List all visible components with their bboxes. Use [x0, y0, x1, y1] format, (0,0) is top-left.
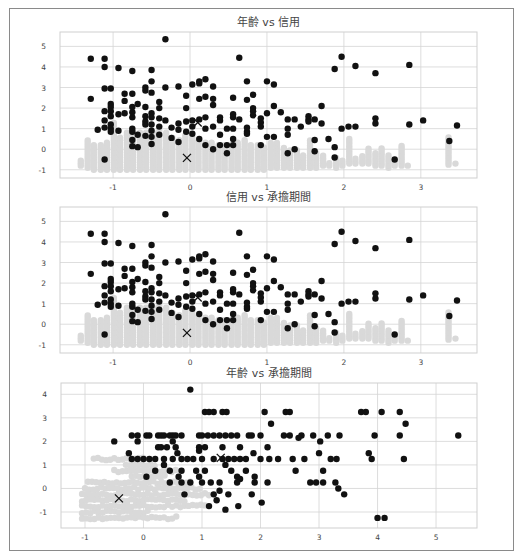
data-point — [285, 291, 291, 297]
data-point — [121, 285, 127, 291]
data-point — [108, 304, 114, 310]
data-point — [101, 156, 107, 162]
data-point — [108, 288, 114, 294]
data-point — [115, 240, 121, 246]
data-point — [320, 468, 326, 474]
data-point — [101, 64, 107, 70]
data-point — [148, 78, 154, 84]
data-point — [187, 386, 193, 392]
data-point — [168, 310, 174, 316]
data-point — [148, 303, 154, 309]
data-point — [258, 298, 264, 304]
data-point — [372, 70, 378, 76]
data-point — [162, 117, 168, 123]
data-point — [134, 438, 140, 444]
data-point — [455, 432, 461, 438]
data-point — [311, 291, 317, 297]
data-point — [446, 138, 452, 144]
data-point — [175, 314, 181, 320]
data-point — [331, 329, 337, 335]
data-point — [224, 317, 230, 323]
data-point — [148, 114, 154, 120]
x-tick-label: 2 — [342, 358, 347, 367]
data-point — [250, 450, 256, 456]
data-point — [230, 125, 236, 131]
data-point — [236, 230, 242, 236]
data-point — [264, 285, 270, 291]
y-tick-label: -1 — [39, 166, 47, 175]
data-point — [371, 432, 377, 438]
data-point — [88, 271, 94, 277]
data-point — [224, 325, 230, 331]
data-point — [202, 114, 208, 120]
data-point — [162, 259, 168, 265]
data-point — [170, 438, 176, 444]
data-point — [101, 231, 107, 237]
data-point — [251, 473, 257, 479]
data-point — [210, 321, 216, 327]
data-point — [210, 258, 216, 264]
data-point — [115, 128, 121, 134]
data-point — [244, 78, 250, 84]
data-point — [271, 309, 277, 315]
data-point — [222, 462, 228, 468]
data-point — [193, 468, 199, 474]
data-point — [391, 156, 397, 162]
data-point — [261, 409, 267, 415]
data-point — [142, 262, 148, 268]
data-point — [285, 150, 291, 156]
data-point — [126, 450, 132, 456]
data-point — [142, 121, 148, 127]
data-point — [178, 468, 184, 474]
data-point — [210, 83, 216, 89]
data-point — [230, 317, 236, 323]
data-point — [264, 253, 270, 259]
data-point — [189, 81, 195, 87]
data-point — [222, 506, 228, 512]
data-point — [196, 80, 202, 86]
y-tick-label: -1 — [40, 508, 48, 517]
data-point — [372, 295, 378, 301]
x-tick-label: 2 — [342, 183, 347, 192]
data-point — [175, 258, 181, 264]
data-point — [338, 228, 344, 234]
data-point — [225, 456, 231, 462]
data-point — [345, 298, 351, 304]
plot-points — [78, 211, 461, 348]
data-point — [190, 456, 196, 462]
y-tick-label: 4 — [41, 238, 46, 247]
data-point — [101, 299, 107, 305]
data-point — [366, 450, 372, 456]
data-point — [115, 303, 121, 309]
data-point — [406, 237, 412, 243]
data-point — [258, 123, 264, 129]
data-point — [156, 298, 162, 304]
data-point — [146, 456, 152, 462]
y-tick-label: 0 — [42, 484, 47, 493]
data-point — [264, 309, 270, 315]
data-point — [454, 122, 460, 128]
data-point — [352, 298, 358, 304]
data-point — [230, 270, 236, 276]
data-point — [217, 292, 223, 298]
data-point — [162, 211, 168, 217]
data-point — [338, 125, 344, 131]
data-point — [271, 278, 277, 284]
data-point — [363, 409, 369, 415]
data-point — [205, 432, 211, 438]
data-point — [115, 65, 121, 71]
data-point — [148, 121, 154, 127]
data-point — [196, 448, 202, 454]
data-point — [268, 421, 274, 427]
data-point — [134, 432, 140, 438]
data-point — [148, 134, 154, 140]
data-point — [142, 133, 148, 139]
data-point — [161, 456, 167, 462]
data-point — [331, 144, 337, 150]
data-point — [287, 409, 293, 415]
y-tick-label: 0 — [41, 320, 46, 329]
x-tick-label: 2 — [258, 533, 263, 542]
data-point — [325, 136, 331, 142]
data-point — [210, 271, 216, 277]
data-point — [129, 318, 135, 324]
